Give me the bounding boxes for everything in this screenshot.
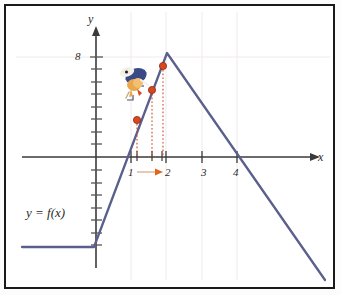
figure-canvas: y x 8 1 2 3 4 y = f(x) [0,0,341,295]
x-tick-label-2: 2 [165,166,171,178]
function-curve [22,53,325,280]
x-axis [22,153,320,161]
y-tick-label-8: 8 [75,50,81,62]
y-axis-label: y [88,12,93,27]
graph-plot [0,0,341,295]
interval-arrow [137,169,163,176]
gridlines [16,12,330,280]
function-label: y = f(x) [26,205,65,221]
x-tick-label-1: 1 [128,166,134,178]
x-axis-label: x [318,150,323,165]
x-tick-label-4: 4 [233,166,239,178]
dropline-axis-ticks [137,151,162,161]
x-tick-label-3: 3 [201,166,207,178]
climbing-figure-illustration [117,63,153,103]
